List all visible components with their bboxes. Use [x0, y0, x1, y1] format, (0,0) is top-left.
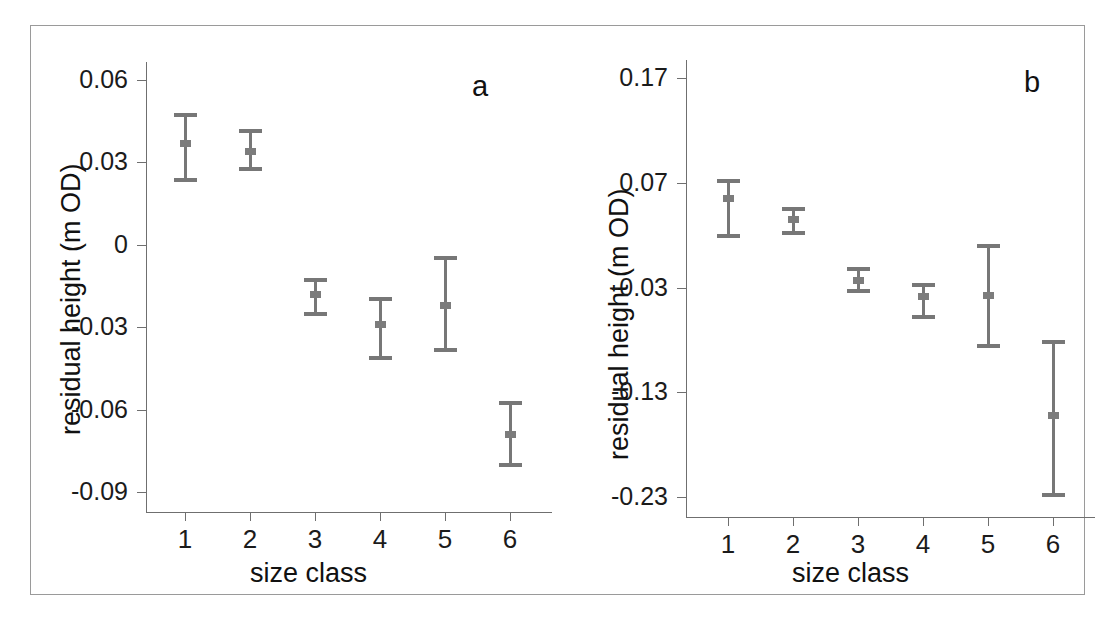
x-tick-label: 4 — [355, 526, 405, 552]
y-tick-mark — [677, 78, 686, 79]
error-bar-cap-lower — [847, 289, 870, 293]
y-tick-mark — [137, 410, 146, 411]
panel-b-x-axis-line — [686, 517, 1095, 518]
x-tick-label: 5 — [963, 531, 1013, 557]
y-tick-mark — [137, 80, 146, 81]
error-bar-cap-upper — [239, 129, 262, 133]
figure-root: a residual height (m OD) size class 0.06… — [0, 0, 1115, 625]
y-tick-label: -0.03 — [0, 314, 128, 339]
error-bar-cap-upper — [847, 267, 870, 271]
data-point-marker — [180, 140, 191, 147]
x-tick-mark — [1053, 517, 1054, 526]
y-tick-mark — [137, 162, 146, 163]
error-bar-stem — [184, 113, 187, 182]
data-point-marker — [1048, 412, 1059, 419]
error-bar-cap-lower — [499, 463, 522, 467]
error-bar-cap-lower — [239, 167, 262, 171]
error-bar-cap-upper — [717, 179, 740, 183]
y-tick-label: -0.06 — [0, 397, 128, 422]
x-tick-label: 3 — [833, 531, 883, 557]
y-tick-label: -0.03 — [518, 275, 668, 300]
error-bar-stem — [922, 283, 925, 319]
y-tick-label: 0.06 — [0, 67, 128, 92]
error-bar-cap-upper — [434, 256, 457, 260]
error-bar-cap-upper — [782, 207, 805, 211]
panel-b: b residual height (m OD) size class 0.17… — [560, 0, 1115, 625]
error-bar — [301, 278, 329, 316]
error-bar-cap-lower — [977, 344, 1000, 348]
x-tick-mark — [445, 512, 446, 521]
panel-a-x-axis-line — [146, 512, 552, 513]
error-bar — [236, 129, 264, 170]
y-tick-mark — [677, 392, 686, 393]
error-bar — [909, 283, 937, 319]
x-tick-mark — [728, 517, 729, 526]
error-bar-cap-upper — [1042, 340, 1065, 344]
x-tick-mark — [858, 517, 859, 526]
y-tick-label: 0.17 — [518, 65, 668, 90]
y-tick-label: 0.03 — [0, 149, 128, 174]
data-point-marker — [853, 277, 864, 284]
panel-b-y-axis-line — [686, 60, 687, 517]
y-tick-mark — [137, 245, 146, 246]
panel-a-y-axis-line — [146, 62, 147, 512]
error-bar-cap-lower — [434, 348, 457, 352]
y-tick-label: -0.13 — [518, 379, 668, 404]
error-bar — [431, 256, 459, 352]
error-bar-cap-lower — [304, 312, 327, 316]
data-point-marker — [245, 148, 256, 155]
error-bar-cap-lower — [174, 178, 197, 182]
error-bar-cap-upper — [174, 113, 197, 117]
x-tick-label: 2 — [225, 526, 275, 552]
data-point-marker — [440, 302, 451, 309]
error-bar-stem — [379, 297, 382, 360]
x-tick-label: 6 — [1028, 531, 1078, 557]
y-tick-label: 0.07 — [518, 170, 668, 195]
panel-b-plot-area: 0.170.07-0.03-0.13-0.23 123456 — [686, 0, 1076, 625]
error-bar — [1039, 340, 1067, 497]
x-tick-label: 4 — [898, 531, 948, 557]
error-bar-cap-lower — [782, 231, 805, 235]
x-tick-label: 1 — [703, 531, 753, 557]
x-tick-mark — [988, 517, 989, 526]
error-bar — [779, 207, 807, 235]
error-bar — [844, 267, 872, 293]
x-tick-label: 5 — [420, 526, 470, 552]
x-tick-mark — [380, 512, 381, 521]
x-tick-label: 1 — [160, 526, 210, 552]
y-tick-label: 0 — [0, 232, 128, 257]
x-tick-mark — [250, 512, 251, 521]
error-bar-stem — [727, 179, 730, 239]
error-bar-cap-lower — [369, 356, 392, 360]
x-tick-mark — [185, 512, 186, 521]
data-point-marker — [375, 321, 386, 328]
y-tick-mark — [677, 288, 686, 289]
data-point-marker — [505, 431, 516, 438]
y-tick-label: -0.23 — [518, 484, 668, 509]
x-tick-label: 3 — [290, 526, 340, 552]
error-bar-cap-upper — [977, 244, 1000, 248]
y-tick-label: -0.09 — [0, 479, 128, 504]
x-tick-label: 6 — [485, 526, 535, 552]
error-bar — [974, 244, 1002, 349]
error-bar-cap-lower — [912, 315, 935, 319]
error-bar — [171, 113, 199, 182]
x-tick-mark — [510, 512, 511, 521]
error-bar-cap-upper — [304, 278, 327, 282]
y-tick-mark — [137, 492, 146, 493]
y-tick-mark — [677, 497, 686, 498]
data-point-marker — [918, 293, 929, 300]
y-tick-mark — [137, 327, 146, 328]
x-tick-mark — [793, 517, 794, 526]
data-point-marker — [723, 195, 734, 202]
y-tick-mark — [677, 183, 686, 184]
panel-b-y-axis-title: residual height (m OD) — [606, 188, 633, 460]
error-bar-cap-upper — [912, 283, 935, 287]
data-point-marker — [983, 292, 994, 299]
error-bar — [366, 297, 394, 360]
panel-a: a residual height (m OD) size class 0.06… — [0, 0, 560, 625]
data-point-marker — [788, 216, 799, 223]
error-bar-cap-upper — [369, 297, 392, 301]
panel-a-plot-area: 0.060.030-0.03-0.06-0.09 123456 — [146, 0, 536, 625]
error-bar — [496, 401, 524, 467]
